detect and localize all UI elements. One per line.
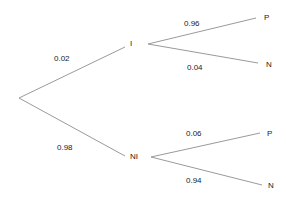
prob-ni-n: 0.94 xyxy=(186,177,202,185)
branch-ni-to-p xyxy=(151,133,260,157)
prob-i: 0.02 xyxy=(54,55,70,63)
tree-lines xyxy=(0,0,286,203)
prob-ni-p: 0.06 xyxy=(186,130,202,138)
node-ni-p: P xyxy=(267,130,272,138)
branch-root-to-i xyxy=(19,47,125,98)
node-ni-n: N xyxy=(268,182,274,190)
branch-i-to-n xyxy=(148,44,258,63)
prob-ni: 0.98 xyxy=(57,144,73,152)
branch-i-to-p xyxy=(148,18,256,44)
node-i-n: N xyxy=(266,61,272,69)
node-i-p: P xyxy=(264,14,269,22)
node-ni: NI xyxy=(130,153,138,161)
prob-i-p: 0.96 xyxy=(184,20,200,28)
prob-i-n: 0.04 xyxy=(187,64,203,72)
node-i: I xyxy=(130,40,132,48)
branch-ni-to-n xyxy=(151,157,262,185)
